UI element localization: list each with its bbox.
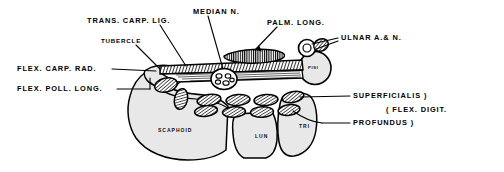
ulnar-artery-and-nerve [299, 37, 331, 57]
bone-label-scaphoid: SCAPHOID [158, 128, 192, 133]
label-flex-poll-long: FLEX. POLL. LONG. [17, 85, 103, 92]
label-superficialis: SUPERFICIALIS ) [353, 92, 427, 99]
label-tubercle: TUBERCLE [101, 38, 141, 44]
palmaris-longus-tendon [224, 49, 285, 63]
median-nerve [211, 69, 237, 90]
label-median-n: MEDIAN N. [193, 8, 240, 15]
bone-label-triquetrum: TRI [299, 124, 310, 129]
label-flex-digit: ( FLEX. DIGIT. [386, 106, 447, 113]
label-flex-carp-rad: FLEX. CARP. RAD. [17, 65, 97, 72]
label-palm-long: PALM. LONG. [267, 19, 325, 26]
bone-label-lunate: LUN [255, 134, 268, 139]
bone-label-pisiform: PISI [308, 66, 319, 70]
label-trans-carp-lig: TRANS. CARP. LIG. [87, 17, 170, 24]
label-ulnar-a-n: ULNAR A.& N. [341, 34, 402, 41]
carpal-tunnel-figure: TRANS. CARP. LIG. MEDIAN N. PALM. LONG. … [0, 0, 504, 172]
label-profundus: PROFUNDUS ) [353, 119, 414, 126]
triquetrum-bone [278, 93, 317, 156]
